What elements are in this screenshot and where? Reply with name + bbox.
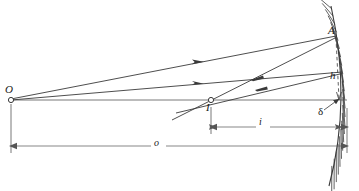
optics-ray-diagram-figure: A O I h δ i o [0,0,359,191]
incident-rays-group [11,36,342,100]
sagitta-label: δ [318,106,323,117]
diagram-canvas [0,0,359,191]
object-distance-dimension [9,104,349,153]
incident-ray-upper [11,36,336,99]
image-distance-label: i [259,117,262,127]
image-point-label: I [206,102,210,113]
sagitta-pointer-arrow [324,99,339,110]
reflected-rays-group [172,38,342,121]
ray-direction-incident-icon [192,60,204,85]
height-label: h [330,70,336,81]
image-distance-dimension [209,107,349,134]
ray-direction-reflected-icon [251,76,268,92]
reflected-ray-upper [172,38,336,121]
object-distance-label: o [154,138,159,148]
object-point-marker [8,97,13,102]
object-point-label: O [5,84,13,95]
incident-ray-lower [11,72,342,100]
mirror-point-label: A [328,25,335,36]
